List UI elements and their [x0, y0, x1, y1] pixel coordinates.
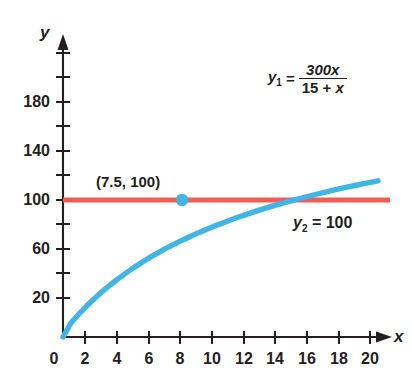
series-y1-curve	[63, 181, 378, 337]
equation-y2-variable: y	[293, 214, 302, 231]
equation-y1-equals: =	[286, 71, 295, 86]
y-tick-label-100: 100	[0, 192, 50, 208]
intersection-point-marker	[176, 194, 188, 206]
y-axis-label: y	[40, 24, 49, 41]
plot-canvas	[0, 0, 411, 383]
equation-y1-subscript: 1	[276, 77, 282, 88]
equation-y2-equals: =	[312, 214, 321, 231]
y-tick-label-180: 180	[0, 94, 50, 110]
y-tick-label-20: 20	[0, 290, 50, 306]
intersection-point-label: (7.5, 100)	[96, 174, 160, 189]
equation-y1-lhs: y1	[268, 69, 282, 88]
equation-y2-subscript: 2	[302, 223, 308, 234]
x-tick-label-12: 12	[235, 351, 253, 367]
x-tick-label-4: 4	[113, 351, 122, 367]
x-tick-label-8: 8	[176, 351, 185, 367]
equation-y2: y2 = 100	[293, 215, 352, 234]
equation-y1-denominator-plus: +	[323, 79, 332, 96]
equation-y1-fraction: 300x 15 + x	[299, 62, 347, 95]
x-tick-label-16: 16	[298, 351, 316, 367]
equation-y1-denominator: 15 + x	[299, 79, 347, 95]
x-tick-label-20: 20	[361, 351, 379, 367]
x-tick-label-0: 0	[50, 351, 59, 367]
chart-figure: y x 180 140 100 60 20 0 2 4 6 8 10 12 14…	[0, 0, 411, 383]
equation-y2-rhs: 100	[326, 214, 353, 231]
x-tick-label-6: 6	[145, 351, 154, 367]
x-axis-label: x	[394, 328, 403, 345]
equation-y1-denominator-b: x	[335, 79, 343, 96]
y-tick-label-140: 140	[0, 143, 50, 159]
y-tick-label-60: 60	[0, 241, 50, 257]
equation-y1-denominator-a: 15	[302, 79, 319, 96]
x-axis-arrowhead	[376, 332, 392, 343]
x-tick-label-18: 18	[330, 351, 348, 367]
x-tick-label-10: 10	[203, 351, 221, 367]
x-tick-label-14: 14	[266, 351, 284, 367]
equation-y2-lhs: y2	[293, 214, 307, 231]
y-axis-arrowhead	[58, 34, 69, 50]
equation-y1: y1 = 300x 15 + x	[268, 62, 347, 95]
equation-y1-numerator: 300x	[299, 62, 347, 79]
x-tick-label-2: 2	[81, 351, 90, 367]
